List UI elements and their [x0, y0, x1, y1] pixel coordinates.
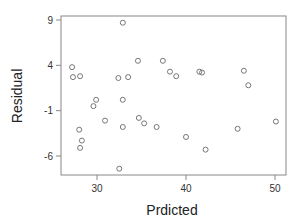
data-point-circle-icon	[78, 74, 83, 79]
data-point-circle-icon	[70, 75, 75, 80]
plot-frame	[61, 16, 286, 175]
data-point-circle-icon	[77, 127, 82, 132]
data-point-circle-icon	[203, 147, 208, 152]
x-tick-label: 30	[91, 183, 103, 194]
data-point-circle-icon	[94, 97, 99, 102]
data-point-circle-icon	[103, 118, 108, 123]
data-point-circle-icon	[79, 138, 84, 143]
data-point-circle-icon	[174, 74, 179, 79]
data-point-circle-icon	[160, 58, 165, 63]
data-point-circle-icon	[154, 124, 159, 129]
data-points	[70, 20, 279, 171]
data-point-circle-icon	[120, 20, 125, 25]
x-tick-label: 40	[180, 183, 192, 194]
y-axis-title: Residual	[9, 69, 25, 123]
data-point-circle-icon	[246, 83, 251, 88]
data-point-circle-icon	[135, 58, 140, 63]
data-point-circle-icon	[120, 124, 125, 129]
y-tick-label: 9	[47, 15, 53, 26]
x-tick-label: 50	[269, 183, 281, 194]
data-point-circle-icon	[136, 115, 141, 120]
data-point-circle-icon	[184, 134, 189, 139]
data-point-circle-icon	[273, 119, 278, 124]
y-tick-label: 4	[47, 60, 53, 71]
data-point-circle-icon	[167, 69, 172, 74]
data-point-circle-icon	[91, 104, 96, 109]
x-axis-title: Prdicted	[146, 202, 197, 218]
data-point-circle-icon	[241, 68, 246, 73]
data-point-circle-icon	[70, 65, 75, 70]
data-point-circle-icon	[78, 145, 83, 150]
y-tick-label: -6	[44, 151, 53, 162]
y-tick-label: -1	[44, 105, 53, 116]
plot-axes: 94-1-6304050	[44, 15, 286, 195]
data-point-circle-icon	[235, 126, 240, 131]
data-point-circle-icon	[116, 76, 121, 81]
data-point-circle-icon	[126, 75, 131, 80]
data-point-circle-icon	[117, 166, 122, 171]
data-point-circle-icon	[142, 121, 147, 126]
residual-scatter-chart: 94-1-6304050 Prdicted Residual	[0, 0, 298, 224]
data-point-circle-icon	[120, 97, 125, 102]
